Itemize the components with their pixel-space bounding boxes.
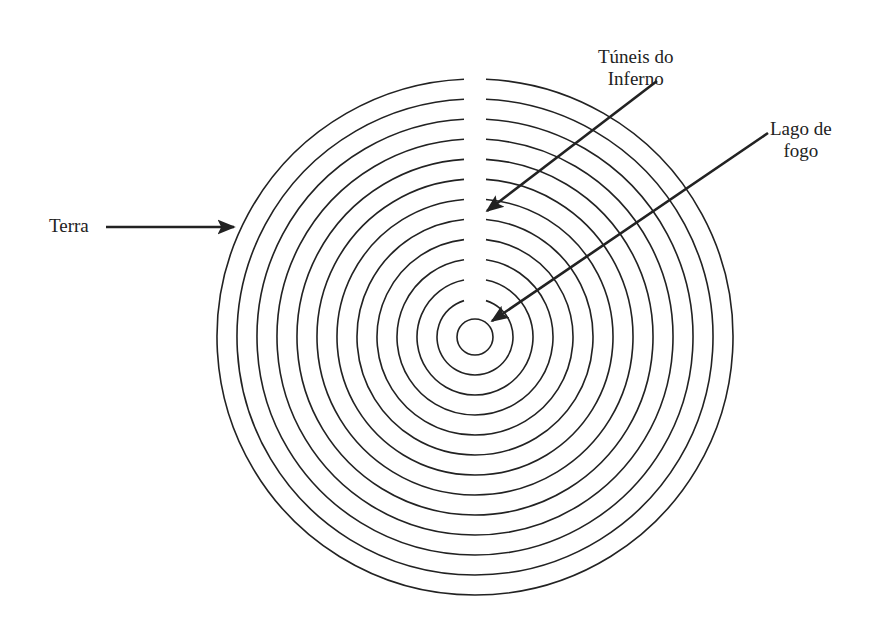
label-earth: Terra xyxy=(49,215,89,237)
label-lake-line2: fogo xyxy=(770,140,832,162)
earth-ring-8 xyxy=(297,159,653,515)
earth-ring-10 xyxy=(257,119,693,555)
tunnels-arrow-icon xyxy=(487,81,657,211)
earth-ring-4 xyxy=(377,240,573,435)
earth-ring-5 xyxy=(357,220,593,455)
earth-ring-3 xyxy=(397,260,553,415)
label-tunnels-of-hell: Túneis do Inferno xyxy=(598,46,673,90)
label-lake-line1: Lago de xyxy=(770,118,832,140)
earth-ring-7 xyxy=(317,179,633,495)
earth-rings xyxy=(217,79,733,595)
label-lake-of-fire: Lago de fogo xyxy=(770,118,832,162)
label-tunnels-line2: Inferno xyxy=(598,68,673,90)
lake-of-fire-circle xyxy=(457,319,493,355)
label-tunnels-line1: Túneis do xyxy=(598,46,673,68)
label-earth-line1: Terra xyxy=(49,215,89,237)
earth-ring-6 xyxy=(337,199,613,475)
earth-ring-11 xyxy=(237,99,713,575)
label-arrows xyxy=(106,81,768,321)
earth-ring-12 xyxy=(217,79,733,595)
earth-ring-2 xyxy=(417,280,533,395)
concentric-rings-diagram xyxy=(0,0,891,631)
lake-arrow-icon xyxy=(492,133,768,321)
earth-ring-1 xyxy=(437,301,513,375)
